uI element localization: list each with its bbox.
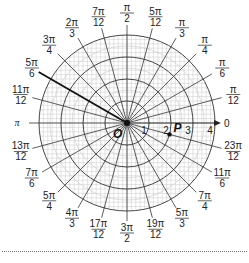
- angle-label: 17π12: [90, 218, 108, 240]
- svg-text:13π: 13π: [12, 140, 30, 151]
- polar-grid-diagram: π12π6π4π35π12π27π122π33π45π611π12π13π127…: [0, 0, 249, 263]
- angle-label: 3π2: [120, 222, 134, 244]
- svg-text:12: 12: [228, 95, 240, 106]
- angle-ray: [127, 54, 196, 123]
- svg-text:12: 12: [15, 151, 27, 162]
- svg-text:3: 3: [179, 28, 185, 39]
- angle-label: 5π3: [175, 207, 189, 229]
- svg-text:6: 6: [29, 178, 35, 189]
- svg-text:4: 4: [202, 201, 208, 212]
- ring-label: 3: [185, 125, 191, 136]
- angle-ray: [102, 28, 127, 123]
- svg-text:12: 12: [150, 17, 162, 28]
- svg-text:3π: 3π: [43, 34, 56, 45]
- svg-text:5π: 5π: [176, 207, 189, 218]
- ring-label: 1: [141, 125, 147, 136]
- svg-text:π: π: [219, 57, 226, 68]
- svg-text:4: 4: [46, 45, 52, 56]
- angle-label: 23π12: [224, 140, 242, 162]
- angle-label: π12: [226, 84, 240, 106]
- svg-text:12: 12: [93, 229, 105, 240]
- angle-label: 19π12: [146, 218, 164, 240]
- angle-ray: [127, 98, 222, 123]
- svg-text:23π: 23π: [224, 140, 242, 151]
- svg-text:6: 6: [219, 178, 225, 189]
- svg-text:π: π: [124, 2, 131, 13]
- svg-text:12: 12: [93, 17, 105, 28]
- svg-text:3: 3: [69, 218, 75, 229]
- angle-label: 5π4: [42, 190, 56, 212]
- svg-text:17π: 17π: [90, 218, 108, 229]
- angle-label: 3π4: [42, 34, 56, 56]
- svg-text:π: π: [14, 117, 20, 128]
- angle-label: π: [14, 117, 20, 128]
- polar-axis-arrowhead-icon: [214, 120, 221, 126]
- angle-label: 5π6: [25, 57, 39, 79]
- svg-text:π: π: [201, 34, 208, 45]
- svg-text:7π: 7π: [199, 190, 212, 201]
- angle-label: π2: [120, 2, 134, 24]
- origin-label: O: [113, 127, 123, 141]
- svg-text:π: π: [230, 84, 237, 95]
- svg-text:3: 3: [179, 218, 185, 229]
- svg-text:4π: 4π: [66, 207, 79, 218]
- point-p-label: P: [174, 121, 183, 135]
- svg-text:2: 2: [124, 13, 130, 24]
- ring-label: 4: [207, 125, 213, 136]
- angle-label: 11π12: [12, 84, 29, 106]
- angle-ray: [127, 28, 152, 123]
- pole-dot: [124, 120, 130, 126]
- polar-axis-label: 0: [224, 118, 230, 129]
- svg-text:19π: 19π: [146, 218, 164, 229]
- svg-text:π: π: [179, 17, 186, 28]
- svg-text:11π: 11π: [12, 84, 29, 95]
- svg-text:12: 12: [15, 95, 27, 106]
- svg-text:5π: 5π: [43, 190, 56, 201]
- svg-text:3: 3: [69, 28, 75, 39]
- angle-label: 11π6: [214, 167, 231, 189]
- angle-label: π4: [198, 34, 212, 56]
- angle-ray: [127, 123, 152, 218]
- svg-text:11π: 11π: [214, 167, 231, 178]
- svg-text:3π: 3π: [121, 222, 134, 233]
- svg-text:6: 6: [219, 68, 225, 79]
- svg-text:5π: 5π: [26, 57, 39, 68]
- svg-text:2: 2: [124, 233, 130, 244]
- dotted-divider: [2, 251, 247, 252]
- angle-label: 7π4: [198, 190, 212, 212]
- angle-label: π6: [215, 57, 229, 79]
- angle-label: π3: [175, 17, 189, 39]
- angle-ray: [32, 98, 127, 123]
- svg-text:12: 12: [150, 229, 162, 240]
- svg-text:2π: 2π: [66, 17, 79, 28]
- point-p-marker: [167, 132, 171, 136]
- svg-text:5π: 5π: [149, 6, 162, 17]
- angle-label: 4π3: [65, 207, 79, 229]
- svg-text:7π: 7π: [92, 6, 105, 17]
- svg-text:12: 12: [228, 151, 240, 162]
- svg-text:4: 4: [46, 201, 52, 212]
- svg-text:6: 6: [29, 68, 35, 79]
- svg-text:4: 4: [202, 45, 208, 56]
- svg-text:7π: 7π: [26, 167, 39, 178]
- angle-label: 2π3: [65, 17, 79, 39]
- angle-label: 13π12: [12, 140, 30, 162]
- angle-label: 5π12: [148, 6, 162, 28]
- angle-label: 7π6: [25, 167, 39, 189]
- angle-label: 7π12: [92, 6, 106, 28]
